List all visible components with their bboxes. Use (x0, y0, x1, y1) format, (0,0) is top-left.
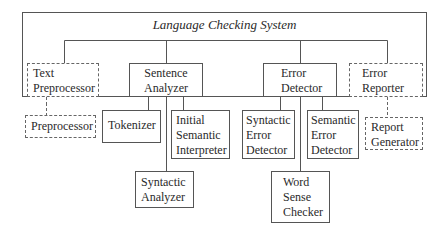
node-syntactic-analyzer: Syntactic Analyzer (135, 171, 194, 208)
node-label: Tokenizer (108, 118, 155, 133)
node-label: Interpreter (176, 143, 224, 158)
node-word-sense-checker: Word Sense Checker (271, 171, 330, 223)
node-syntactic-error-detector: Syntactic Error Detector (242, 110, 295, 159)
node-label: Preprocessor (31, 119, 90, 134)
node-label: Initial (176, 113, 224, 128)
node-preprocessor: Preprocessor (25, 115, 96, 138)
node-label: Syntactic (141, 175, 188, 190)
node-label: Semantic (176, 128, 224, 143)
node-label: Text (33, 66, 93, 81)
node-label: Report (371, 120, 417, 135)
node-text-preprocessor: Text Preprocessor (27, 63, 99, 97)
node-label: Reporter (362, 81, 417, 96)
node-label: Word (283, 175, 324, 190)
node-label: Analyzer (135, 81, 197, 96)
node-initial-semantic-interpreter: Initial Semantic Interpreter (171, 110, 230, 159)
node-error-detector: Error Detector (263, 63, 337, 97)
node-label: Sense (283, 190, 324, 205)
node-tokenizer: Tokenizer (102, 110, 161, 143)
node-label: Detector (311, 143, 353, 158)
node-label: Semantic (311, 113, 353, 128)
node-label: Checker (283, 205, 324, 220)
node-label: Generator (371, 135, 417, 150)
node-sentence-analyzer: Sentence Analyzer (129, 63, 203, 97)
node-label: Preprocessor (33, 81, 93, 96)
node-report-generator: Report Generator (365, 117, 423, 150)
node-label: Analyzer (141, 190, 188, 205)
node-label: Error (362, 66, 417, 81)
node-label: Detector (246, 143, 289, 158)
diagram-title: Language Checking System (22, 17, 427, 33)
node-label: Error (281, 66, 331, 81)
node-label: Error (246, 128, 289, 143)
node-label: Syntactic (246, 113, 289, 128)
node-label: Error (311, 128, 353, 143)
node-error-reporter: Error Reporter (349, 63, 423, 97)
node-semantic-error-detector: Semantic Error Detector (307, 110, 359, 159)
node-label: Sentence (135, 66, 197, 81)
node-label: Detector (281, 81, 331, 96)
